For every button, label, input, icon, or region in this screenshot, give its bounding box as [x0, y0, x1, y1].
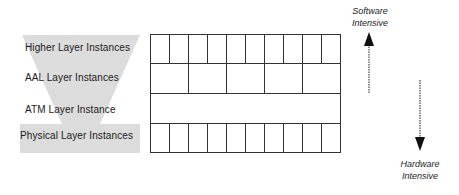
up-arrow-head-icon — [364, 32, 374, 46]
down-arrow-head-icon — [415, 137, 425, 151]
grid-cell — [284, 124, 303, 152]
row-physical-layer — [151, 124, 340, 152]
grid-cell — [322, 35, 340, 63]
grid-cell — [170, 124, 189, 152]
grid-cell — [303, 64, 340, 93]
row-aal-layer — [151, 64, 340, 94]
grid-cell — [151, 124, 170, 152]
layer-grid — [150, 34, 341, 153]
label-aal-layer: AAL Layer Instances — [25, 72, 119, 83]
label-physical-layer: Physical Layer Instances — [20, 130, 133, 141]
software-line: Software — [345, 5, 395, 17]
grid-cell — [151, 64, 189, 93]
grid-cell — [322, 124, 340, 152]
grid-cell — [246, 124, 265, 152]
grid-cell — [227, 64, 265, 93]
label-atm-layer: ATM Layer Instance — [25, 104, 116, 115]
grid-cell — [151, 35, 170, 63]
grid-cell — [189, 35, 208, 63]
grid-cell — [265, 35, 284, 63]
grid-cell — [265, 124, 284, 152]
grid-cell — [246, 35, 265, 63]
intensive-line: Intensive — [345, 17, 395, 29]
row-atm-layer — [151, 94, 340, 124]
hardware-intensive-label: Hardware Intensive — [395, 158, 445, 182]
grid-cell — [284, 35, 303, 63]
grid-cell — [303, 35, 322, 63]
hardware-line: Hardware — [395, 158, 445, 170]
grid-cell — [189, 124, 208, 152]
grid-cell — [189, 64, 227, 93]
grid-cell — [303, 124, 322, 152]
grid-cell — [227, 35, 246, 63]
grid-cell — [170, 35, 189, 63]
software-intensive-label: Software Intensive — [345, 5, 395, 29]
label-higher-layer: Higher Layer Instances — [25, 42, 130, 53]
grid-cell — [208, 124, 227, 152]
intensive-line: Intensive — [395, 170, 445, 182]
grid-cell — [151, 94, 340, 123]
grid-cell — [208, 35, 227, 63]
grid-cell — [265, 64, 303, 93]
row-higher-layer — [151, 35, 340, 64]
grid-cell — [227, 124, 246, 152]
